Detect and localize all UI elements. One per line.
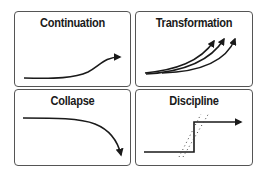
- panel-collapse: Collapse: [14, 89, 131, 166]
- panel-discipline: Discipline: [135, 89, 253, 166]
- panel-continuation: Continuation: [14, 11, 131, 87]
- panel-title-transformation: Transformation: [141, 16, 248, 30]
- panel-transformation: Transformation: [135, 11, 253, 87]
- panel-title-collapse: Collapse: [20, 94, 126, 108]
- panel-title-discipline: Discipline: [141, 94, 248, 108]
- panel-title-continuation: Continuation: [20, 16, 126, 30]
